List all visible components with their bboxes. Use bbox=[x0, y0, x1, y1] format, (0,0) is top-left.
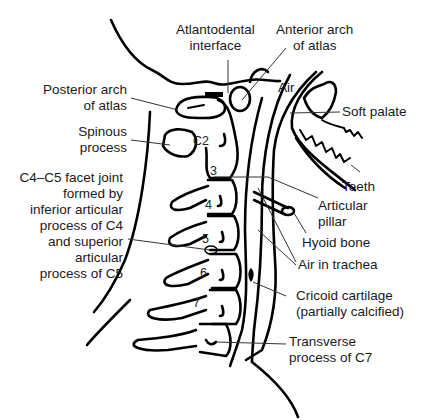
label-line: Anterior arch bbox=[276, 22, 353, 38]
c7-spinous bbox=[134, 330, 196, 350]
cervical-spine-diagram: Atlantodental interface Anterior arch of… bbox=[0, 0, 433, 420]
leader-transverse-c7 bbox=[216, 342, 286, 344]
vertebra-label-c4: 4 bbox=[205, 198, 212, 212]
label-articular-pillar: Articular pillar bbox=[318, 198, 368, 230]
label-line: C4–C5 facet joint bbox=[19, 170, 123, 186]
atlantodental-band bbox=[205, 92, 223, 97]
label-line: of atlas bbox=[276, 38, 353, 54]
c4-hook bbox=[220, 232, 223, 242]
vertebra-label-c6: 6 bbox=[200, 266, 207, 280]
teeth-lower bbox=[300, 130, 350, 162]
label-soft-palate: Soft palate bbox=[342, 104, 407, 120]
label-spinous-process: Spinous process bbox=[78, 124, 127, 156]
label-line: (partially calcified) bbox=[296, 304, 404, 320]
label-line: articular bbox=[19, 250, 123, 266]
leader-trachea-2 bbox=[258, 230, 296, 265]
leader-teeth bbox=[351, 165, 360, 172]
label-line: Transverse bbox=[289, 334, 372, 350]
vertebra-label-c3: 3 bbox=[210, 164, 217, 178]
label-line: pillar bbox=[318, 214, 368, 230]
posterior-neck-lower bbox=[87, 300, 130, 345]
c7-body bbox=[200, 324, 231, 356]
label-line: Spinous bbox=[78, 124, 127, 140]
label-posterior-arch-atlas: Posterior arch of atlas bbox=[43, 82, 127, 114]
cricoid-calcification bbox=[248, 268, 253, 282]
vertebra-label-c7: 7 bbox=[193, 296, 200, 310]
label-line: formed by bbox=[19, 186, 123, 202]
c2-hook bbox=[220, 134, 225, 146]
label-line: Atlantodental bbox=[176, 22, 255, 38]
leader-articular-pillar-2 bbox=[268, 177, 318, 198]
leader-trachea-1 bbox=[258, 188, 296, 262]
label-transverse-process-c7: Transverse process of C7 bbox=[289, 334, 372, 366]
label-cricoid-cartilage: Cricoid cartilage (partially calcified) bbox=[296, 288, 404, 320]
c5-body bbox=[210, 254, 241, 288]
label-line: process of C4 bbox=[19, 218, 123, 234]
label-anterior-arch-atlas: Anterior arch of atlas bbox=[276, 22, 353, 54]
label-line: Cricoid cartilage bbox=[296, 288, 404, 304]
anterior-arch-atlas bbox=[230, 87, 250, 111]
leader-hyoid bbox=[294, 213, 306, 233]
label-atlantodental-interface: Atlantodental interface bbox=[176, 22, 255, 54]
label-line: and superior bbox=[19, 234, 123, 250]
label-air: Air bbox=[278, 80, 295, 96]
label-line: Articular bbox=[318, 198, 368, 214]
leader-posterior-arch bbox=[131, 98, 178, 110]
c6-body bbox=[210, 290, 241, 324]
c7-transverse bbox=[206, 340, 216, 344]
anterior-neck-skin bbox=[252, 362, 298, 417]
vertebra-label-c2: C2 bbox=[193, 134, 209, 148]
label-teeth: Teeth bbox=[342, 179, 375, 195]
vertebra-label-c5: 5 bbox=[202, 232, 209, 246]
teeth-upper bbox=[322, 120, 362, 138]
label-line: of atlas bbox=[43, 98, 127, 114]
label-hyoid-bone: Hyoid bone bbox=[302, 235, 370, 251]
c2-spinous bbox=[163, 129, 196, 156]
leader-soft-palate bbox=[290, 112, 340, 113]
label-air-in-trachea: Air in trachea bbox=[298, 257, 378, 273]
hyoid-tip bbox=[282, 207, 294, 215]
c3-spinous bbox=[171, 186, 208, 210]
c4-spinous bbox=[169, 222, 206, 246]
c3-body bbox=[208, 180, 237, 214]
label-facet-joint: C4–C5 facet joint formed by inferior art… bbox=[19, 170, 123, 282]
label-line: interface bbox=[176, 38, 255, 54]
c3-hook bbox=[218, 196, 221, 206]
label-line: process of C5 bbox=[19, 266, 123, 282]
label-line: Posterior arch bbox=[43, 82, 127, 98]
c6-hook bbox=[220, 306, 223, 316]
c5-hook bbox=[220, 270, 223, 280]
label-line: process bbox=[78, 140, 127, 156]
label-line: inferior articular bbox=[19, 202, 123, 218]
posterior-arch-inner bbox=[188, 105, 204, 108]
label-line: process of C7 bbox=[289, 350, 372, 366]
